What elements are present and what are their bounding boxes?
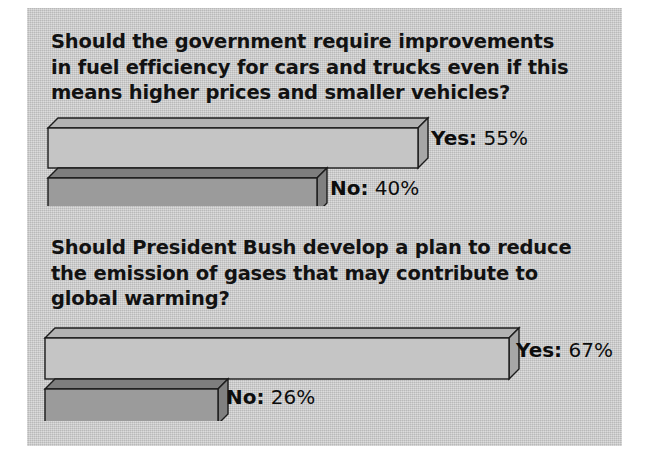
bar-q2-yes-front-face [45,338,509,379]
question-1-text: Should the government require improvemen… [51,29,591,106]
chart-question-1 [0,106,651,206]
label-q1-no: No: 40% [330,176,419,200]
bar-q2-no-top-face [45,379,228,389]
label-q2-yes-value: 67% [568,338,612,362]
chart-question-2 [0,316,651,421]
label-q1-yes: Yes: 55% [431,126,528,150]
label-q1-yes-value: 55% [483,126,527,150]
bar-q1-no-front-face [48,178,317,206]
label-q1-no-value: 40% [375,176,419,200]
label-q2-yes: Yes: 67% [516,338,613,362]
bar-q2-no [45,379,228,421]
label-q1-yes-key: Yes: [431,126,477,150]
label-q2-no-value: 26% [271,385,315,409]
label-q2-yes-key: Yes: [516,338,562,362]
question-2-text: Should President Bush develop a plan to … [51,235,591,312]
bar-q2-yes [45,328,519,379]
bar-q2-yes-top-face [45,328,519,338]
bar-q1-yes [48,118,428,168]
label-q2-no-key: No: [226,385,264,409]
bar-q1-yes-top-face [48,118,428,128]
label-q1-no-key: No: [330,176,368,200]
bar-q1-no-top-face [48,168,327,178]
bar-q1-yes-front-face [48,128,418,168]
label-q2-no: No: 26% [226,385,315,409]
bar-q2-no-front-face [45,389,218,421]
bar-q1-no [48,168,327,206]
